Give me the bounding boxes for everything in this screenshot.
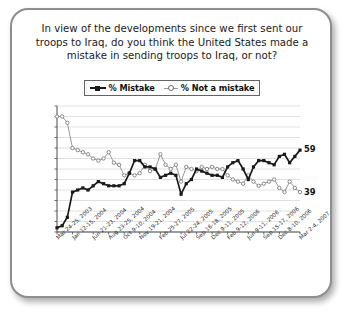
line-chart [12, 10, 334, 300]
chart-card: In view of the developments since we fir… [10, 8, 332, 298]
end-label-not-mistake: 39 [304, 187, 316, 197]
chart-plot-area: 80757065605550454035302520 Mar 24-25, 20… [12, 10, 334, 300]
end-label-mistake: 59 [304, 144, 316, 154]
